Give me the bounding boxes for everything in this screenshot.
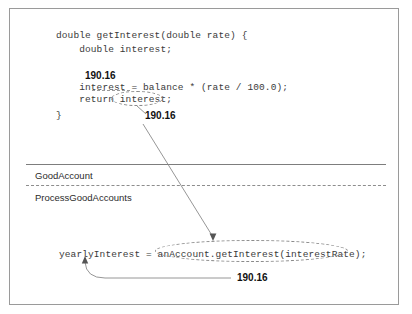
class-label-goodaccount: GoodAccount [35, 170, 93, 181]
value-label-return: 190.16 [145, 110, 176, 121]
value-label-assignment: 190.16 [85, 70, 116, 81]
highlight-ellipse-method-call [155, 240, 348, 262]
class-label-processgoodaccounts: ProcessGoodAccounts [35, 192, 132, 203]
code-line-method-signature: double getInterest(double rate) { [56, 30, 247, 42]
code-line-closing-brace: } [56, 110, 62, 122]
highlight-ellipse-return-interest [111, 91, 163, 106]
divider-solid-top [26, 164, 386, 165]
code-line-assign-interest: interest = balance * (rate / 100.0); [56, 82, 288, 94]
value-label-caller: 190.16 [237, 272, 268, 283]
code-line-declare-interest: double interest; [56, 44, 172, 56]
divider-dashed-middle [26, 185, 386, 186]
figure-canvas: double getInterest(double rate) { double… [0, 0, 412, 314]
